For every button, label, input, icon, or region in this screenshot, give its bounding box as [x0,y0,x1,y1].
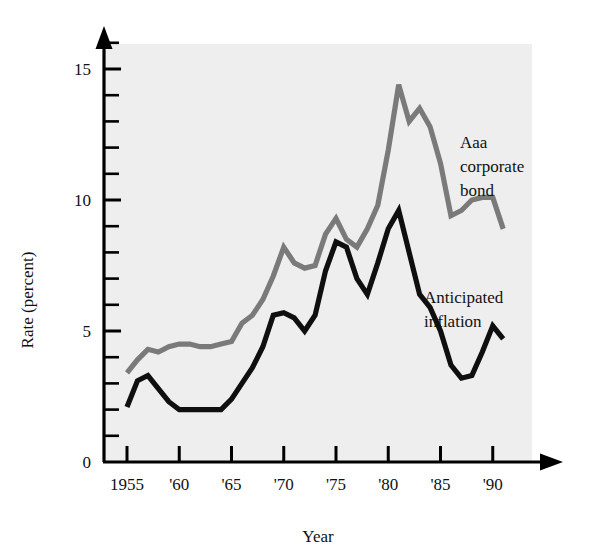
y-axis-tick-labels: 051015 [74,60,91,472]
y-axis-tick-label: 10 [74,191,91,210]
x-axis-title: Year [302,527,334,546]
y-axis-tick-label: 15 [74,60,91,79]
x-axis-arrowhead [540,454,563,471]
series-label-line: Anticipated [424,288,504,307]
x-axis-tick-label: '80 [378,475,398,494]
x-axis-tick-label: '90 [483,475,503,494]
series-label-line: Aaa [460,133,488,152]
x-axis-tick-label: 1955 [110,475,144,494]
series-label-line: inflation [424,312,482,331]
y-axis-title: Rate (percent) [18,252,37,349]
x-axis-tick-label: '85 [430,475,450,494]
x-axis-tick-labels: 1955'60'65'70'75'80'85'90 [110,475,503,494]
x-axis-tick-label: '70 [274,475,294,494]
y-axis-arrowhead [96,26,113,49]
inflation-bond-rate-chart: 051015 1955'60'65'70'75'80'85'90 Rate (p… [0,0,596,560]
series-label-line: corporate [460,157,524,176]
x-axis-tick-label: '65 [221,475,241,494]
x-axis-tick-label: '60 [169,475,189,494]
x-axis-tick-label: '75 [326,475,346,494]
chart-figure: 051015 1955'60'65'70'75'80'85'90 Rate (p… [0,0,596,560]
y-axis-tick-label: 5 [83,322,92,341]
y-axis-tick-label: 0 [83,453,92,472]
series-label-line: bond [460,181,495,200]
